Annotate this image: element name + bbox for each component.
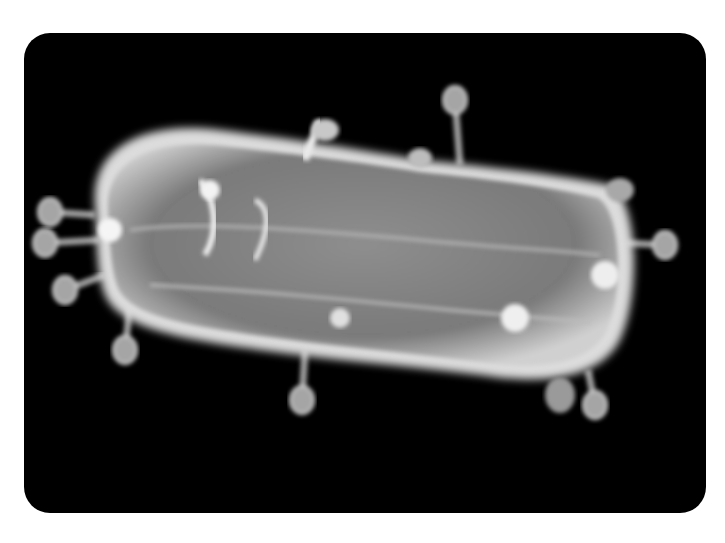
phage-head — [33, 229, 57, 257]
bacterium-micrograph — [24, 33, 706, 513]
phage — [53, 275, 105, 304]
phage — [583, 370, 607, 419]
phage — [290, 350, 314, 414]
phage — [443, 86, 467, 165]
phage-head — [583, 391, 607, 419]
phage-head — [443, 86, 467, 114]
phage-head — [113, 336, 137, 364]
micrograph-panel: Scanning electron micrograph: bacterioph… — [24, 33, 706, 513]
phage — [33, 229, 100, 257]
phage-head — [38, 198, 62, 226]
bacterium-body — [95, 119, 634, 413]
phage-head — [653, 231, 677, 259]
phage — [38, 198, 95, 226]
phage-head — [290, 386, 314, 414]
phage-head — [53, 276, 77, 304]
